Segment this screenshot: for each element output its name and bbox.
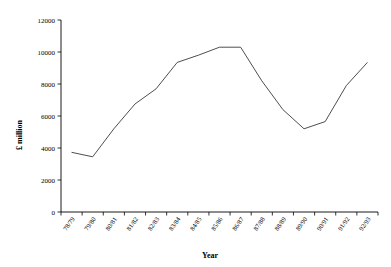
x-tick-label: 89/90 bbox=[294, 215, 309, 232]
y-axis-title: £ million bbox=[15, 119, 24, 150]
y-tick-label: 6000 bbox=[41, 113, 56, 121]
x-tick-label: 90/91 bbox=[315, 216, 329, 232]
x-axis-title: Year bbox=[202, 251, 218, 260]
x-tick-label: 82/83 bbox=[146, 215, 161, 232]
y-axis: 020004000600080001000012000 bbox=[38, 17, 62, 217]
x-tick-label: 86/87 bbox=[231, 215, 246, 232]
y-tick-label: 12000 bbox=[38, 17, 56, 25]
x-tick-label: 83/84 bbox=[167, 215, 182, 232]
x-tick-label: 85/86 bbox=[209, 215, 224, 232]
chart-canvas: 020004000600080001000012000 78/7979/8080… bbox=[0, 0, 391, 267]
x-tick-label: 81/82 bbox=[125, 216, 139, 232]
x-tick-label: 78/79 bbox=[62, 215, 77, 232]
line-chart: 020004000600080001000012000 78/7979/8080… bbox=[0, 0, 391, 267]
y-tick-label: 4000 bbox=[41, 145, 56, 153]
x-tick-label: 92/93 bbox=[357, 215, 372, 232]
x-tick-label: 91/92 bbox=[336, 216, 350, 232]
x-tick-label: 80/81 bbox=[104, 216, 118, 232]
data-series bbox=[72, 47, 368, 157]
x-axis: 78/7979/8080/8181/8282/8383/8484/8585/86… bbox=[61, 212, 378, 232]
y-tick-label: 10000 bbox=[38, 49, 56, 57]
x-tick-label: 87/88 bbox=[252, 215, 267, 232]
x-tick-label: 88/89 bbox=[273, 215, 288, 232]
y-tick-label: 2000 bbox=[41, 177, 56, 185]
y-tick-label: 8000 bbox=[41, 81, 56, 89]
x-tick-label: 84/85 bbox=[188, 215, 203, 232]
series-line bbox=[72, 47, 368, 157]
x-tick-label: 79/80 bbox=[83, 215, 98, 232]
y-tick-label: 0 bbox=[52, 209, 56, 217]
